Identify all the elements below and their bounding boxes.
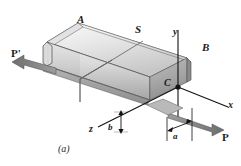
label-axis-y: y — [173, 27, 177, 37]
figure-caption: (a) — [58, 143, 70, 154]
label-axis-z: z — [89, 124, 93, 134]
label-dimension-b: b — [108, 123, 113, 132]
label-dimension-a: a — [173, 132, 178, 141]
axis-x-line — [178, 87, 228, 107]
bar-right-end-cap — [187, 58, 191, 82]
label-force-p: P — [222, 131, 229, 143]
label-section-s: S — [135, 24, 141, 35]
label-axis-x: x — [228, 100, 233, 110]
bar-solid — [43, 23, 191, 105]
label-point-c: C — [164, 78, 171, 88]
label-point-a: A — [77, 14, 84, 25]
label-force-p-prime: P' — [11, 47, 21, 59]
bar-diagram-svg — [0, 0, 241, 166]
origin-point-c — [175, 84, 180, 89]
figure-container: A S B C y x z b a P P' (a) — [0, 0, 241, 166]
label-point-b: B — [202, 42, 209, 53]
